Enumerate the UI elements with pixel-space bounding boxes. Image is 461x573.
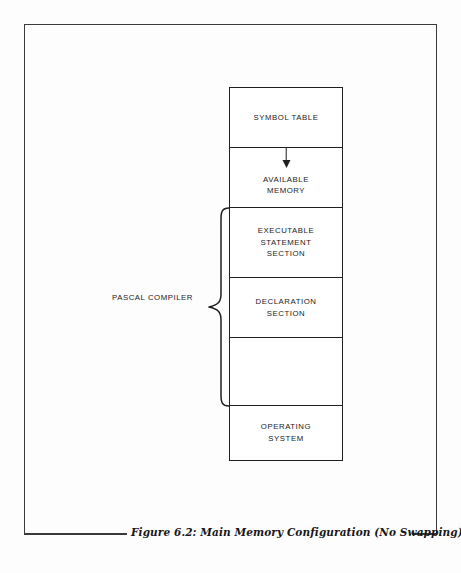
- memory-section-executable-statement: EXECUTABLE STATEMENT SECTION: [230, 208, 342, 278]
- memory-section-operating-system: OPERATING SYSTEM: [230, 406, 342, 459]
- memory-section-declaration: DECLARATION SECTION: [230, 278, 342, 338]
- memory-section-available-memory: AVAILABLE MEMORY: [230, 148, 342, 208]
- pascal-compiler-label: PASCAL COMPILER: [112, 293, 202, 302]
- memory-section-label: OPERATING SYSTEM: [258, 421, 314, 444]
- pascal-compiler-brace: [206, 206, 230, 408]
- memory-section-label: SYMBOL TABLE: [251, 112, 322, 124]
- memory-map-diagram: SYMBOL TABLE AVAILABLE MEMORY EXECUTABLE…: [229, 87, 343, 461]
- figure-caption: Figure 6.2: Main Memory Configuration (N…: [131, 526, 409, 538]
- memory-section-symbol-table: SYMBOL TABLE: [230, 88, 342, 148]
- down-arrow-icon: [282, 148, 291, 168]
- down-arrow-head: [282, 160, 290, 168]
- memory-section-label: DECLARATION SECTION: [253, 296, 320, 319]
- memory-section-empty: [230, 338, 342, 406]
- memory-section-label: EXECUTABLE STATEMENT SECTION: [255, 225, 317, 260]
- memory-section-label: AVAILABLE MEMORY: [260, 174, 312, 197]
- figure-frame-bottom-rule-left: [24, 533, 127, 535]
